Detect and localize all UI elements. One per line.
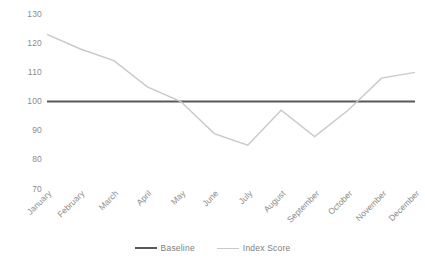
x-axis: JanuaryFebruaryMarchAprilMayJuneJulyAugu… [47, 189, 415, 235]
y-axis-tick-label: 100 [8, 97, 42, 106]
series-line-index-score [47, 34, 415, 145]
y-axis-tick-label: 70 [8, 185, 42, 194]
legend-entry[interactable]: Index Score [217, 244, 291, 253]
y-axis-tick-label: 90 [8, 126, 42, 135]
legend-entry[interactable]: Baseline [135, 244, 195, 253]
legend-swatch-icon [135, 247, 157, 249]
y-axis-tick-label: 110 [8, 68, 42, 77]
plot-area [47, 14, 415, 189]
legend-swatch-icon [217, 248, 239, 249]
legend-label: Baseline [161, 244, 195, 253]
legend-label: Index Score [243, 244, 291, 253]
y-axis-tick-label: 80 [8, 155, 42, 164]
plot-svg [47, 14, 415, 189]
chart-legend: BaselineIndex Score [0, 238, 425, 258]
y-axis-tick-label: 130 [8, 10, 42, 19]
line-chart: 130120110100908070 JanuaryFebruaryMarchA… [0, 0, 425, 263]
y-axis-tick-label: 120 [8, 39, 42, 48]
